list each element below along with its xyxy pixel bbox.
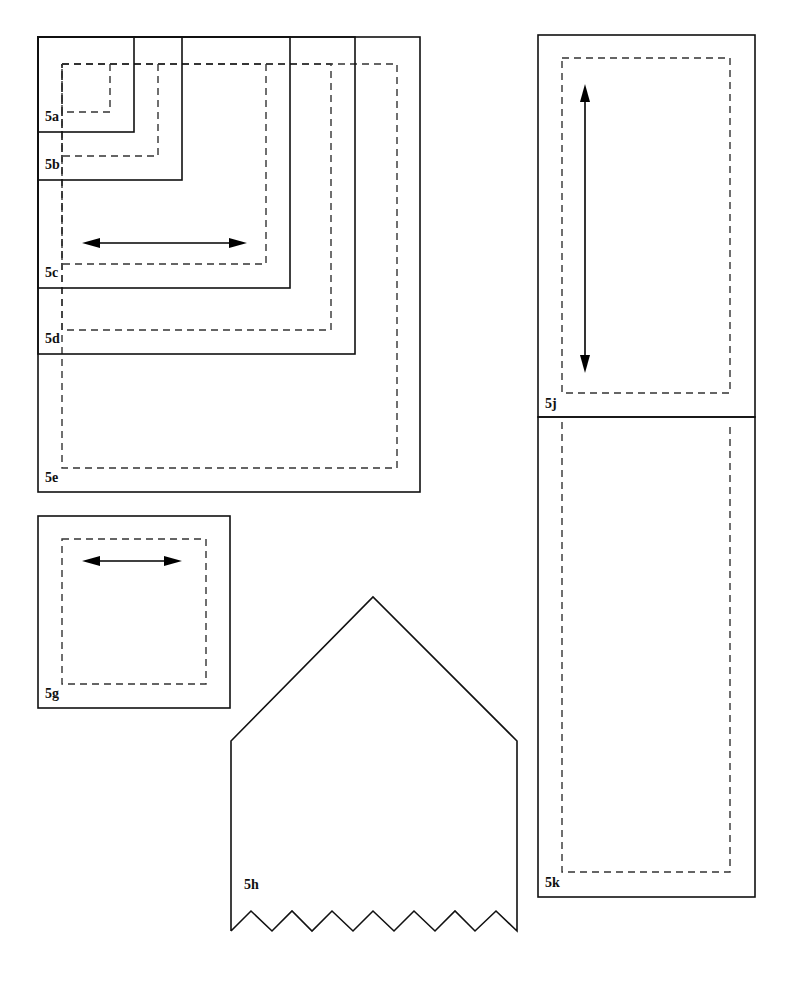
label-5j: 5j xyxy=(545,397,557,411)
label-5h: 5h xyxy=(244,878,259,892)
piece-5d xyxy=(38,37,355,354)
piece-5h xyxy=(231,597,517,931)
piece-5g xyxy=(38,516,230,708)
label-5a: 5a xyxy=(45,110,59,124)
piece-5k xyxy=(538,417,755,897)
pattern-sheet xyxy=(0,0,788,994)
piece-5e xyxy=(38,37,420,492)
grain-arrow-5c-icon xyxy=(82,238,247,248)
label-5b: 5b xyxy=(45,158,60,172)
label-5g: 5g xyxy=(45,687,59,701)
grain-arrow-5j-icon xyxy=(580,84,590,373)
label-5e: 5e xyxy=(45,471,58,485)
label-5d: 5d xyxy=(45,332,60,346)
label-5c: 5c xyxy=(45,266,58,280)
grain-arrow-5g-icon xyxy=(82,556,182,566)
label-5k: 5k xyxy=(545,876,560,890)
piece-5c xyxy=(38,37,290,288)
piece-5j xyxy=(538,35,755,417)
